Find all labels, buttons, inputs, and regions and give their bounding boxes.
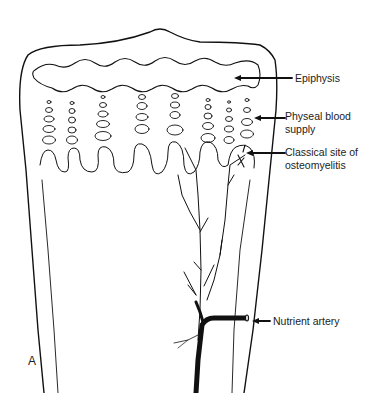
arrowhead-icon: [252, 318, 259, 324]
label-nutrient-artery: Nutrient artery: [273, 315, 340, 328]
label-arrows: [238, 78, 292, 321]
label-physeal-line1: Physeal blood: [285, 110, 351, 123]
bone-outline: [20, 29, 277, 393]
label-osteo-line2: osteomyelitis: [285, 159, 358, 172]
panel-label: A: [28, 354, 36, 368]
physeal-vessels: [43, 94, 254, 145]
label-epiphysis: Epiphysis: [295, 72, 340, 85]
arrowhead-icon: [254, 115, 261, 121]
epiphysis-outline: [33, 58, 260, 92]
label-osteo-line1: Classical site of: [285, 146, 358, 159]
bone-diagram: [0, 0, 369, 393]
arrowhead-icon: [234, 75, 241, 81]
nutrient-artery: [174, 302, 249, 393]
label-osteomyelitis: Classical site of osteomyelitis: [285, 146, 358, 171]
right-inner-cortex: [232, 180, 250, 393]
metaphyseal-arteries: [178, 148, 245, 340]
label-physeal-blood-supply: Physeal blood supply: [285, 110, 351, 135]
arrowhead-icon: [246, 150, 253, 156]
left-inner-cortex: [42, 180, 58, 393]
label-physeal-line2: supply: [285, 123, 351, 136]
metaphysis-boundary: [40, 142, 255, 174]
